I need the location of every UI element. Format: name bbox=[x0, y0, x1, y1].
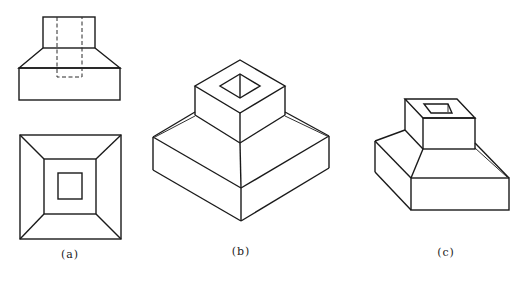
panel-b-isometric bbox=[153, 60, 329, 221]
front-view-frustum bbox=[19, 48, 120, 68]
top-view-inner bbox=[44, 159, 96, 214]
top-view-hole bbox=[58, 173, 82, 199]
front-view-upper-block bbox=[43, 17, 95, 48]
panel-a-front-view bbox=[19, 17, 120, 100]
caption-a: (a) bbox=[61, 248, 79, 261]
oblique-top-face bbox=[405, 99, 475, 118]
technical-drawing bbox=[0, 0, 530, 281]
panel-c-oblique bbox=[375, 99, 509, 210]
panel-a-top-view bbox=[20, 135, 121, 239]
front-view-base bbox=[19, 68, 120, 100]
oblique-front-face bbox=[423, 118, 475, 149]
oblique-base-front bbox=[411, 178, 509, 210]
caption-b: (b) bbox=[232, 245, 251, 258]
caption-c: (c) bbox=[437, 246, 455, 259]
